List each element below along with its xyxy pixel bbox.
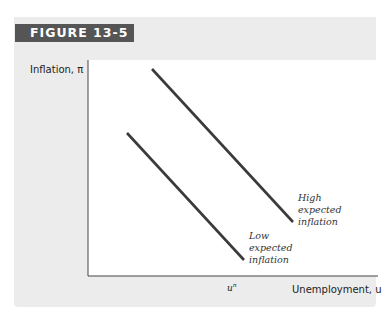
annotation-line: High xyxy=(298,192,342,204)
x-axis-label: Unemployment, u xyxy=(292,284,382,295)
annotation-line: Low xyxy=(249,230,293,242)
annotation-line: inflation xyxy=(298,216,342,228)
annotation-line: inflation xyxy=(249,254,293,266)
annotation-line: expected xyxy=(298,204,342,216)
annotation-line: expected xyxy=(249,242,293,254)
high-expected-annotation: High expected inflation xyxy=(298,192,342,228)
chart-lines xyxy=(0,0,387,320)
low-expected-inflation-curve xyxy=(127,133,244,260)
low-expected-annotation: Low expected inflation xyxy=(249,230,293,266)
natural-rate-tick: un xyxy=(227,281,237,293)
y-axis-label: Inflation, π xyxy=(30,64,83,75)
tick-superscript: n xyxy=(233,281,237,288)
high-expected-inflation-curve xyxy=(152,69,293,222)
